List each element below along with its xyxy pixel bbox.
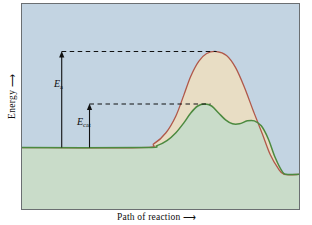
x-axis-arrow-icon: ⟶ xyxy=(183,212,195,222)
x-axis-label-text: Path of reaction xyxy=(117,212,180,222)
ea-label: Ea xyxy=(54,78,63,89)
x-axis-label: Path of reaction ⟶ xyxy=(0,212,312,222)
y-axis-arrow-icon: ⟶ xyxy=(7,75,17,87)
reaction-coordinate-plot xyxy=(22,4,299,209)
plot-area: Ea Ecat xyxy=(21,3,300,210)
y-axis-label: Energy ⟶ xyxy=(7,59,17,135)
energy-diagram-figure: Ea Ecat Energy ⟶ Path of reaction ⟶ xyxy=(0,0,312,225)
y-axis-label-text: Energy xyxy=(7,90,17,119)
ecat-label: Ecat xyxy=(77,116,91,127)
